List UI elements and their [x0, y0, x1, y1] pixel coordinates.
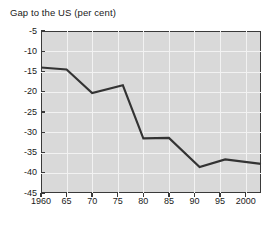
- chart-container: Gap to the US (per cent) -5-10-15-20-25-…: [0, 0, 277, 229]
- line-series-gap-to-the-us: [41, 67, 261, 167]
- data-series-layer: [0, 0, 277, 229]
